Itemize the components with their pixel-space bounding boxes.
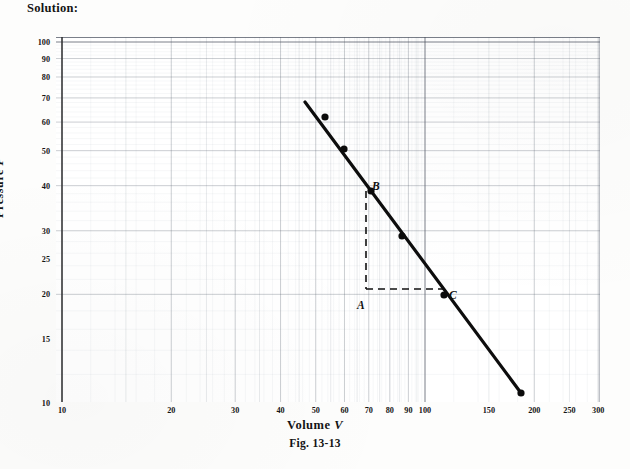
x-tick-90: 90: [404, 406, 412, 415]
point-label-c: C: [449, 289, 457, 301]
data-point-5: [440, 291, 447, 298]
y-tick-10: 10: [18, 399, 50, 408]
y-tick-40: 40: [18, 181, 50, 190]
x-axis-title-text: Volume: [287, 418, 334, 432]
x-tick-150: 150: [483, 406, 495, 415]
data-point-4: [398, 232, 405, 239]
x-tick-100: 100: [419, 406, 431, 415]
y-tick-25: 25: [18, 255, 50, 264]
y-tick-100: 100: [18, 38, 50, 47]
x-tick-60: 60: [340, 406, 348, 415]
y-axis-title: Pressure P: [0, 157, 7, 218]
x-tick-70: 70: [365, 406, 373, 415]
y-axis-title-var: P: [0, 157, 6, 165]
figure-page: Solution: 1015202530405060708090100 1020…: [0, 0, 630, 469]
plot-area: [56, 37, 600, 402]
y-tick-50: 50: [18, 146, 50, 155]
y-tick-80: 80: [18, 72, 50, 81]
solution-heading: Solution:: [27, 1, 78, 16]
x-tick-80: 80: [386, 406, 394, 415]
x-tick-300: 300: [592, 406, 604, 415]
y-tick-70: 70: [18, 93, 50, 102]
x-tick-200: 200: [528, 406, 540, 415]
y-tick-60: 60: [18, 118, 50, 127]
y-tick-20: 20: [18, 290, 50, 299]
point-label-a: A: [357, 299, 365, 311]
plot-data-layer: [56, 37, 600, 402]
point-label-b: B: [372, 180, 380, 192]
data-point-2: [340, 145, 347, 152]
x-axis-title-var: V: [334, 418, 343, 432]
x-axis-title: Volume V: [0, 418, 630, 433]
x-tick-10: 10: [58, 406, 66, 415]
x-tick-40: 40: [276, 406, 284, 415]
y-tick-15: 15: [18, 335, 50, 344]
y-tick-30: 30: [18, 226, 50, 235]
y-axis-title-text: Pressure: [0, 165, 6, 218]
figure-caption: Fig. 13-13: [0, 437, 630, 449]
x-tick-20: 20: [167, 406, 175, 415]
data-point-6: [517, 389, 524, 396]
data-point-1: [321, 113, 328, 120]
x-tick-30: 30: [231, 406, 239, 415]
x-tick-50: 50: [312, 406, 320, 415]
y-tick-90: 90: [18, 54, 50, 63]
x-tick-250: 250: [563, 406, 575, 415]
